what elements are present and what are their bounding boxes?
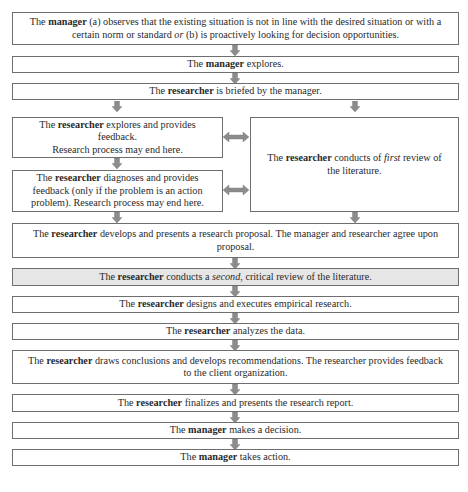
down-arrow-icon [350, 101, 360, 112]
step-conclusions: The researcher draws conclusions and dev… [12, 350, 459, 384]
step-text: The manager makes a decision. [170, 424, 302, 436]
down-arrow-icon [350, 212, 360, 223]
step-text: The researcher conducts a second, critic… [99, 271, 372, 283]
step-text: The researcher draws conclusions and dev… [27, 355, 444, 380]
step-text: The manager (a) observes that the existi… [19, 16, 452, 41]
double-arrow-icon [223, 185, 249, 195]
step-manager-action: The manager takes action. [12, 449, 459, 466]
step-analyzes-data: The researcher analyzes the data. [12, 323, 459, 340]
step-text: The researcher conducts of first review … [265, 152, 444, 177]
step-text: The researcher finalizes and presents th… [118, 397, 354, 409]
step-first-literature-review: The researcher conducts of first review … [250, 117, 459, 212]
step-manager-observes: The manager (a) observes that the existi… [12, 12, 459, 45]
step-text: The researcher explores and provides fee… [21, 119, 214, 156]
step-text: The researcher develops and presents a r… [31, 228, 440, 253]
step-text: The researcher diagnoses and provides fe… [17, 172, 218, 209]
step-research-report: The researcher finalizes and presents th… [12, 394, 459, 412]
down-arrow-icon [112, 158, 122, 169]
step-second-literature-review: The researcher conducts a second, critic… [12, 268, 459, 286]
step-researcher-diagnoses: The researcher diagnoses and provides fe… [12, 170, 223, 212]
step-text: The manager takes action. [180, 451, 290, 463]
down-arrow-icon [112, 212, 122, 223]
step-text: The researcher designs and executes empi… [119, 298, 351, 310]
step-text: The manager explores. [187, 58, 283, 70]
down-arrow-icon [230, 45, 240, 56]
step-text: The researcher is briefed by the manager… [149, 85, 321, 97]
step-manager-decision: The manager makes a decision. [12, 422, 459, 439]
down-arrow-icon [112, 101, 122, 112]
step-researcher-briefed: The researcher is briefed by the manager… [12, 83, 459, 100]
step-manager-explores: The manager explores. [12, 56, 459, 73]
step-designs-research: The researcher designs and executes empi… [12, 296, 459, 313]
step-research-proposal: The researcher develops and presents a r… [12, 223, 459, 258]
step-researcher-explores: The researcher explores and provides fee… [12, 117, 223, 158]
step-text: The researcher analyzes the data. [166, 325, 305, 337]
double-arrow-icon [223, 132, 249, 142]
